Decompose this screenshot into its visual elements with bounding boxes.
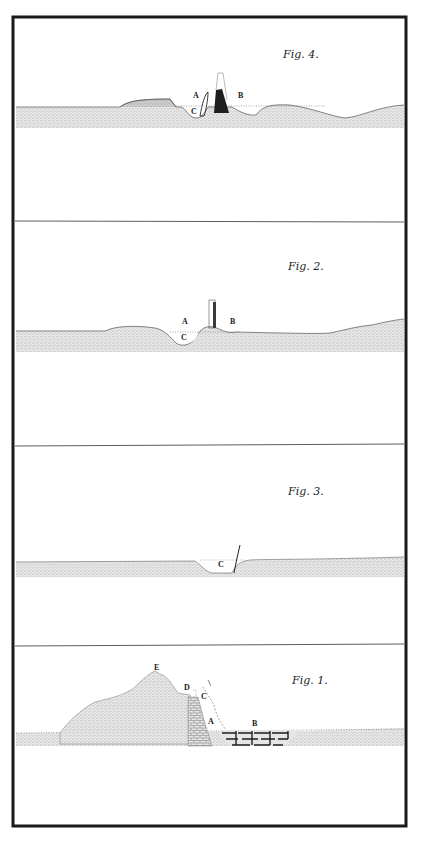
panel-divider (15, 644, 404, 646)
earthen-mound (60, 671, 192, 744)
ground-profile (16, 319, 404, 352)
figure-4-caption: Fig. 4. (282, 48, 319, 61)
figure-1: Fig. 1. E D C A B (16, 663, 404, 746)
panel-divider (15, 221, 404, 222)
figure-3: Fig. 3. C (16, 485, 404, 577)
point-label-E: E (154, 663, 159, 672)
point-label-A: A (193, 91, 199, 100)
point-label-B: B (238, 91, 244, 100)
plate-frame (13, 17, 406, 826)
point-label-C: C (201, 692, 207, 701)
point-label-A: A (208, 717, 214, 726)
point-label-B: B (230, 317, 236, 326)
ground-profile (16, 99, 404, 128)
engraved-plate: Fig. 4. A B C Fig. 2. A B C Fig. 3. (0, 0, 423, 841)
point-label-C: C (218, 560, 224, 569)
point-label-D: D (184, 683, 190, 692)
figure-3-caption: Fig. 3. (287, 485, 324, 498)
point-label-C: C (191, 107, 197, 116)
point-label-A: A (182, 317, 188, 326)
point-label-C: C (181, 333, 187, 342)
figure-2: Fig. 2. A B C (16, 260, 404, 352)
figure-4: Fig. 4. A B C (16, 48, 404, 128)
figure-2-caption: Fig. 2. (287, 260, 324, 273)
panel-divider (15, 444, 404, 446)
rampart-section (214, 89, 229, 113)
figure-1-caption: Fig. 1. (291, 674, 328, 687)
point-label-B: B (252, 719, 258, 728)
